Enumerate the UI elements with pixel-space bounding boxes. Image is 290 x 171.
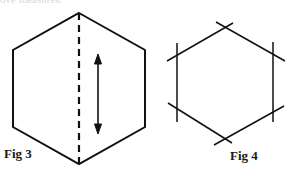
fig3-label: Fig 3 [4, 146, 32, 162]
fig4-hexagon [167, 22, 285, 145]
double-arrow-icon [95, 54, 102, 134]
diagram-canvas [0, 0, 290, 171]
fig4-label: Fig 4 [230, 148, 258, 164]
